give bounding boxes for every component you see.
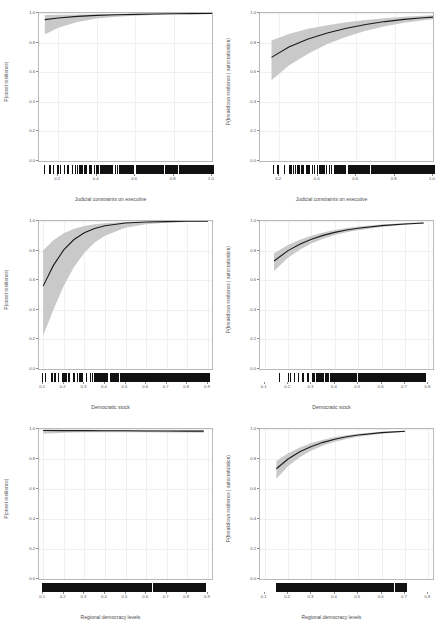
x-axis-tick-label: 0.4 [101, 594, 107, 599]
rug-tick [290, 373, 291, 382]
panel-2-rug [259, 165, 434, 174]
fit-line [43, 431, 204, 432]
panel-1-y-axis-label: P(onset resilience) [0, 0, 14, 162]
fit-curve-svg [39, 221, 212, 369]
y-axis-tick-label: 0.6 [224, 486, 259, 491]
y-axis-tick-label: 0.6 [224, 277, 259, 282]
x-axis-tick-mark [145, 382, 146, 384]
y-axis-tick-label: 0.4 [3, 306, 38, 311]
x-axis-tick-label: 0.5 [122, 594, 128, 599]
rug-tick [213, 165, 214, 174]
x-axis-tick-label: 0.2 [284, 384, 290, 389]
rug-tick [82, 165, 83, 174]
y-axis-tick-mark [257, 548, 259, 549]
x-axis-tick-mark [404, 592, 405, 594]
rug-tick [163, 165, 164, 174]
y-axis-tick-label: 0.6 [224, 69, 259, 74]
rug-tick [50, 165, 51, 174]
x-axis-tick-mark [63, 592, 64, 594]
x-axis-tick-mark [134, 174, 135, 176]
gridline-horizontal [39, 579, 212, 580]
x-axis-tick-mark [432, 174, 433, 176]
x-axis-tick-label: 0.8 [170, 176, 176, 181]
x-axis-tick-label: 0.3 [308, 594, 314, 599]
x-axis-tick-label: 0.1 [39, 384, 45, 389]
x-axis-tick-mark [404, 382, 405, 384]
rug-tick [205, 583, 206, 592]
y-axis-tick-mark [257, 309, 259, 310]
y-axis-tick-mark [36, 488, 38, 489]
x-axis-tick-mark [334, 382, 335, 384]
y-axis-tick-label: 0.2 [224, 546, 259, 551]
y-axis-tick-mark [257, 12, 259, 13]
y-axis-tick-label: 0.4 [224, 516, 259, 521]
x-axis-tick-label: 0.2 [60, 594, 66, 599]
rug-tick [53, 165, 54, 174]
x-axis-tick-mark [355, 174, 356, 176]
y-axis-tick-label: 0.2 [3, 546, 38, 551]
y-axis-tick-label: 0.2 [224, 128, 259, 133]
x-axis-tick-mark [83, 382, 84, 384]
rug-tick [68, 165, 69, 174]
y-axis-tick-label: 0.6 [3, 277, 38, 282]
rug-tick [291, 165, 292, 174]
rug-tick [91, 165, 92, 174]
rug-tick [376, 165, 377, 174]
rug-tick [314, 165, 315, 174]
y-axis-tick-mark [36, 548, 38, 549]
rug-tick [288, 373, 289, 382]
x-axis-tick-mark [427, 592, 428, 594]
rug-tick [273, 165, 274, 174]
x-axis-tick-mark [104, 592, 105, 594]
y-axis-tick-label: 1.0 [224, 426, 259, 431]
x-axis-tick-mark [145, 592, 146, 594]
fit-curve-svg [260, 13, 433, 161]
x-axis-tick-mark [317, 174, 318, 176]
gridline-horizontal [39, 369, 212, 370]
x-axis-tick-mark [96, 174, 97, 176]
rug-tick [293, 165, 294, 174]
rug-tick [309, 165, 310, 174]
panel-5-x-axis-label: Regional democracy levels [0, 614, 221, 620]
rug-tick [331, 165, 332, 174]
x-axis-tick-label: 0.1 [261, 384, 267, 389]
y-axis-tick-mark [257, 250, 259, 251]
y-axis-tick-label: 1.0 [3, 10, 38, 15]
y-axis-tick-mark [257, 279, 259, 280]
y-axis-tick-mark [36, 458, 38, 459]
figure-grid: P(onset resilience) Judicial constraints… [0, 0, 442, 626]
rug-tick [295, 165, 296, 174]
y-axis-tick-mark [257, 160, 259, 161]
gridline-horizontal [39, 161, 212, 162]
x-axis-tick-label: 0.8 [183, 384, 189, 389]
y-axis-tick-mark [36, 101, 38, 102]
panel-5-rug [38, 583, 213, 592]
x-axis-tick-label: 0.4 [331, 384, 337, 389]
rug-tick [107, 373, 108, 382]
panel-1-x-axis-label: Judicial constraints on executive [0, 196, 221, 202]
x-axis-tick-label: 0.7 [163, 594, 169, 599]
x-axis-tick-label: 0.6 [378, 594, 384, 599]
rug-tick [209, 373, 210, 382]
rug-tick [284, 165, 285, 174]
x-axis-tick-mark [57, 174, 58, 176]
fit-curve-svg [260, 429, 433, 579]
x-axis-tick-label: 0.5 [354, 384, 360, 389]
x-axis-tick-label: 0.9 [204, 594, 210, 599]
y-axis-tick-label: 0.8 [3, 247, 38, 252]
rug-tick [54, 373, 55, 382]
rug-tick [86, 373, 87, 382]
y-axis-tick-label: 0.6 [3, 486, 38, 491]
rug-tick [90, 373, 91, 382]
panel-4-x-axis-label: Democratic stock [221, 404, 442, 410]
rug-tick [299, 165, 300, 174]
panel-3-x-axis-label: Democratic stock [0, 404, 221, 410]
y-axis-tick-mark [257, 71, 259, 72]
x-axis-tick-mark [207, 382, 208, 384]
panel-6-x-axis-label: Regional democracy levels [221, 614, 442, 620]
x-axis-tick-mark [381, 592, 382, 594]
rug-tick [58, 165, 59, 174]
x-axis-tick-label: 0.7 [163, 384, 169, 389]
y-axis-tick-label: 0.8 [3, 456, 38, 461]
x-axis-tick-label: 0.9 [204, 384, 210, 389]
